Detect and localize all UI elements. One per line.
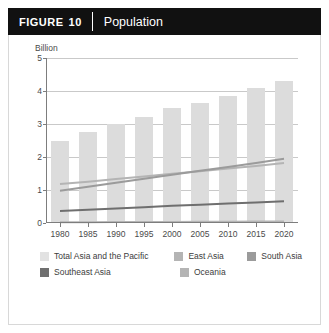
x-tick-label-1985: 1985 <box>74 229 102 239</box>
x-tick-label-2020: 2020 <box>270 229 298 239</box>
x-tick-mark-2015 <box>256 223 257 227</box>
figure-tag-label: FIGURE <box>19 16 64 28</box>
y-tick-mark-5 <box>43 58 46 59</box>
y-tick-mark-2 <box>43 157 46 158</box>
legend-swatch-east-asia <box>174 252 183 261</box>
legend-item-southeast-asia: Southeast Asia <box>40 267 180 277</box>
plot-area: 198019851990199520002005201020152020 <box>46 58 298 223</box>
x-tick-mark-1985 <box>88 223 89 227</box>
x-tick-mark-1990 <box>116 223 117 227</box>
legend-label-south-asia: South Asia <box>261 251 302 261</box>
figure-header: FIGURE 10 Population <box>8 8 321 35</box>
y-tick-mark-3 <box>43 124 46 125</box>
legend-row-1: Total Asia and the Pacific East Asia Sou… <box>40 251 302 261</box>
legend-swatch-southeast-asia <box>40 268 49 277</box>
legend-label-east-asia: East Asia <box>188 251 223 261</box>
legend-label-oceania: Oceania <box>194 267 226 277</box>
line-east-asia <box>60 163 284 184</box>
legend-row-2: Southeast Asia Oceania <box>40 267 302 277</box>
legend-item-oceania: Oceania <box>180 267 256 277</box>
figure-tag: FIGURE 10 <box>8 8 92 35</box>
y-tick-mark-0 <box>43 223 46 224</box>
x-tick-label-2000: 2000 <box>158 229 186 239</box>
legend-label-southeast-asia: Southeast Asia <box>54 267 111 277</box>
line-southeast-asia <box>60 201 284 211</box>
legend-swatch-south-asia <box>247 252 256 261</box>
y-tick-label-0: 0 <box>22 218 42 228</box>
y-tick-label-2: 2 <box>22 152 42 162</box>
y-tick-mark-4 <box>43 91 46 92</box>
y-axis-line <box>46 58 47 223</box>
chart-legend: Total Asia and the Pacific East Asia Sou… <box>40 251 302 283</box>
x-tick-mark-2005 <box>200 223 201 227</box>
x-tick-mark-2000 <box>172 223 173 227</box>
x-tick-mark-1995 <box>144 223 145 227</box>
x-tick-label-1980: 1980 <box>46 229 74 239</box>
legend-item-east-asia: East Asia <box>174 251 247 261</box>
figure-tag-number: 10 <box>69 16 82 28</box>
figure-body: Billion 19801985199019952000200520102015… <box>8 35 321 325</box>
legend-item-south-asia: South Asia <box>247 251 302 261</box>
y-axis-label: Billion <box>35 43 58 53</box>
figure-title: Population <box>93 8 163 35</box>
x-tick-mark-1980 <box>60 223 61 227</box>
legend-item-total-asia-and-the-pacific: Total Asia and the Pacific <box>40 251 174 261</box>
y-tick-mark-1 <box>43 190 46 191</box>
x-tick-label-2010: 2010 <box>214 229 242 239</box>
x-tick-label-2005: 2005 <box>186 229 214 239</box>
legend-label-total-asia-and-the-pacific: Total Asia and the Pacific <box>54 251 149 261</box>
y-tick-label-1: 1 <box>22 185 42 195</box>
y-tick-label-5: 5 <box>22 53 42 63</box>
legend-swatch-total-asia-and-the-pacific <box>40 252 49 261</box>
x-tick-label-1995: 1995 <box>130 229 158 239</box>
line-south-asia <box>60 159 284 191</box>
y-tick-label-3: 3 <box>22 119 42 129</box>
x-tick-mark-2020 <box>284 223 285 227</box>
figure-container: FIGURE 10 Population Billion 19801985199… <box>8 8 321 325</box>
x-tick-label-1990: 1990 <box>102 229 130 239</box>
legend-swatch-oceania <box>180 268 189 277</box>
y-tick-label-4: 4 <box>22 86 42 96</box>
line-series-group <box>46 58 298 223</box>
x-tick-mark-2010 <box>228 223 229 227</box>
x-tick-label-2015: 2015 <box>242 229 270 239</box>
